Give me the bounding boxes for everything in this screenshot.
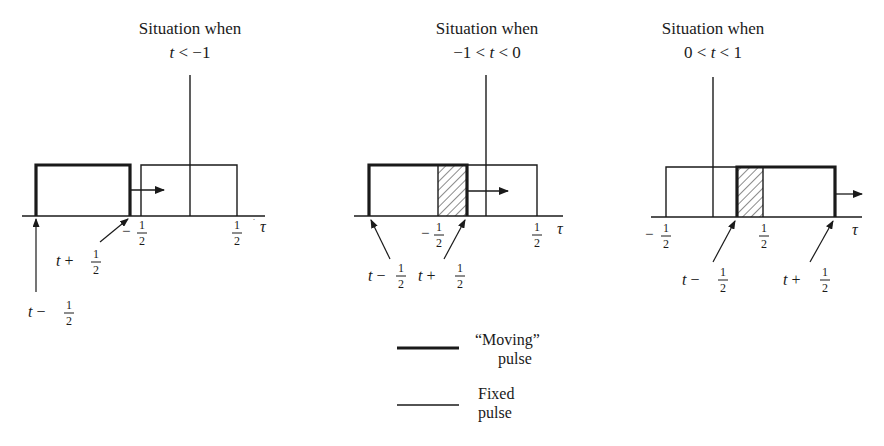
svg-text:2: 2 xyxy=(66,314,72,328)
pointer-arrow-icon xyxy=(444,220,465,259)
svg-text:2: 2 xyxy=(534,236,540,250)
svg-text:t +: t + xyxy=(418,267,435,284)
pointer-arrow-icon xyxy=(371,220,390,259)
axis-dot: . xyxy=(253,213,255,222)
overlap-hatched-region xyxy=(438,165,467,216)
svg-text:2: 2 xyxy=(663,237,669,251)
tick-minus-half: − 1 2 xyxy=(122,218,147,248)
svg-text:t +: t + xyxy=(783,271,800,288)
label-t-minus-half: t − 1 2 xyxy=(682,265,728,295)
svg-text:1: 1 xyxy=(534,220,540,234)
svg-text:−: − xyxy=(421,225,429,241)
svg-text:−: − xyxy=(122,223,130,239)
svg-text:2: 2 xyxy=(398,277,404,291)
legend: “Moving” pulse Fixed pulse xyxy=(397,331,540,422)
panel-2-title: Situation when xyxy=(436,19,539,38)
svg-text:1: 1 xyxy=(822,265,828,279)
svg-text:t −: t − xyxy=(368,267,385,284)
svg-text:1: 1 xyxy=(457,261,463,275)
svg-text:2: 2 xyxy=(761,237,767,251)
svg-text:2: 2 xyxy=(822,281,828,295)
panel-3: Situation when 0 < t < 1 τ − 1 2 1 2 t −… xyxy=(645,19,862,295)
legend-fixed-label-2: pulse xyxy=(478,404,512,422)
svg-text:2: 2 xyxy=(436,236,442,250)
legend-moving-label: “Moving” xyxy=(475,331,540,349)
tick-minus-half: − 1 2 xyxy=(645,221,671,251)
panel-3-condition: 0 < t < 1 xyxy=(684,43,742,62)
svg-text:1: 1 xyxy=(93,247,99,261)
svg-text:2: 2 xyxy=(93,263,99,277)
panel-1-condition: t < −1 xyxy=(170,43,211,62)
svg-text:2: 2 xyxy=(457,277,463,291)
pointer-arrow-icon xyxy=(713,221,735,262)
svg-text:2: 2 xyxy=(139,234,145,248)
tau-label: τ xyxy=(852,221,859,238)
tick-half: 1 2 xyxy=(232,218,242,248)
moving-pulse xyxy=(36,165,130,216)
convolution-diagram: Situation when t < −1 τ . − 1 2 1 2 xyxy=(0,0,884,446)
label-t-minus-half: t − 1 2 xyxy=(28,298,74,328)
svg-text:1: 1 xyxy=(139,218,145,232)
svg-text:1: 1 xyxy=(720,265,726,279)
label-t-minus-half: t − 1 2 xyxy=(368,261,406,291)
panel-1-title: Situation when xyxy=(139,19,242,38)
tick-half: 1 2 xyxy=(532,220,542,250)
svg-text:1: 1 xyxy=(436,220,442,234)
svg-text:1: 1 xyxy=(398,261,404,275)
pointer-arrow-icon xyxy=(810,221,833,262)
label-t-plus-half: t + 1 2 xyxy=(418,261,465,291)
svg-text:−: − xyxy=(645,226,653,242)
panel-3-title: Situation when xyxy=(662,19,765,38)
tick-minus-half: − 1 2 xyxy=(421,220,444,250)
tau-label: τ xyxy=(260,218,267,235)
label-t-plus-half: t + 1 2 xyxy=(783,265,830,295)
svg-text:2: 2 xyxy=(720,281,726,295)
svg-text:1: 1 xyxy=(663,221,669,235)
svg-text:2: 2 xyxy=(234,234,240,248)
overlap-hatched-region xyxy=(737,167,763,217)
svg-text:t −: t − xyxy=(28,303,45,320)
tau-label: τ xyxy=(557,220,564,237)
panel-2-condition: −1 < t < 0 xyxy=(453,43,521,62)
tick-half: 1 2 xyxy=(759,221,769,251)
legend-moving-label-2: pulse xyxy=(498,350,532,368)
panel-2: Situation when −1 < t < 0 τ − 1 2 1 2 t … xyxy=(354,19,564,291)
svg-text:t +: t + xyxy=(56,252,73,269)
label-t-plus-half: t + 1 2 xyxy=(56,247,101,277)
svg-text:1: 1 xyxy=(761,221,767,235)
panel-1: Situation when t < −1 τ . − 1 2 1 2 xyxy=(22,19,267,328)
svg-text:t −: t − xyxy=(682,271,699,288)
svg-text:1: 1 xyxy=(66,298,72,312)
legend-fixed-label: Fixed xyxy=(478,385,514,402)
svg-text:1: 1 xyxy=(234,218,240,232)
